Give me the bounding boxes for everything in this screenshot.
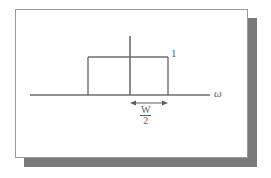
omega-axis-label: ω xyxy=(214,88,222,99)
figure-page: 1 ω W 2 xyxy=(0,0,271,178)
fraction-denominator: 2 xyxy=(140,116,151,126)
half-bandwidth-label: W 2 xyxy=(140,105,151,126)
amplitude-label: 1 xyxy=(171,48,177,59)
dimension-arrow-head-left xyxy=(130,100,136,105)
dimension-arrow-head-right xyxy=(162,100,168,105)
pulse-diagram xyxy=(15,9,248,158)
